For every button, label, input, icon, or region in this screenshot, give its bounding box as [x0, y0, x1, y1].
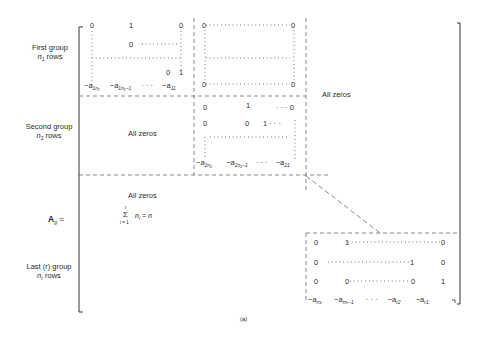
- block1-rlast-c1: 0: [166, 68, 170, 77]
- row-label-last: Last (r) group nr rows: [20, 262, 78, 283]
- block2-r1c3: · · · 0: [276, 103, 294, 112]
- row-label-last-count: nr rows: [20, 271, 78, 283]
- block1-rlast-c2: 1: [179, 68, 183, 77]
- blockr-r2c3: 0: [441, 258, 445, 267]
- block1-r2c2: 0: [129, 40, 133, 49]
- figure-caption: (a): [240, 316, 247, 322]
- row-label-last-title: Last (r) group: [20, 262, 78, 271]
- blockr-r2c2: 1: [410, 258, 414, 267]
- block1-r1c2: 1: [129, 21, 133, 30]
- block1-r1c1: 0: [90, 21, 94, 30]
- blockr-r1c2: 1: [345, 238, 349, 247]
- block1-bottom-row: −a1n₁ −a1n₁−1 · · · −a11: [84, 81, 176, 91]
- matrix-label: Ag =: [48, 214, 64, 225]
- blockr-r1c3: 0: [441, 238, 445, 247]
- block2-r2c3: 1 · · ·: [263, 119, 281, 128]
- row-label-second-count: n2 rows: [20, 131, 78, 143]
- blockr-r3c4: 1: [441, 277, 445, 286]
- block2-bottom-row: −a2n₂ −a2n₂−1 · · · −a21: [196, 158, 290, 168]
- all-zeros-second-left: All zeros: [128, 129, 157, 138]
- blockr-r3c2: 0: [345, 277, 349, 286]
- blockr-r2c1: 0: [314, 258, 318, 267]
- blockr-r1c1: 0: [314, 238, 318, 247]
- block2-r2c2: 0: [245, 119, 249, 128]
- block1-right-br: 0: [291, 80, 295, 89]
- blockr-r3c3: 0: [411, 277, 415, 286]
- blockr-bottom-row: −arnᵣ −arnᵣ−1 · · · −ar2 −ar1: [308, 295, 429, 305]
- block1-r1c3: 0: [179, 21, 183, 30]
- block2-r1c1: 0: [203, 103, 207, 112]
- block1-right-tl: 0: [202, 21, 206, 30]
- block2-r1c2: 1: [246, 101, 250, 110]
- row-label-second-title: Second group: [20, 122, 78, 131]
- row-label-first-title: First group: [22, 43, 78, 52]
- block1-right-tr: 0: [291, 21, 295, 30]
- row-label-first-count: n1 rows: [22, 52, 78, 64]
- all-zeros-top-right: All zeros: [322, 90, 351, 99]
- block1-right-bl: 0: [202, 80, 206, 89]
- blockr-r3c1: 0: [314, 277, 318, 286]
- all-zeros-middle: All zeros: [128, 191, 157, 200]
- row-label-first: First group n1 rows: [22, 43, 78, 64]
- block2-r2c1: 0: [203, 119, 207, 128]
- row-label-second: Second group n2 rows: [20, 122, 78, 143]
